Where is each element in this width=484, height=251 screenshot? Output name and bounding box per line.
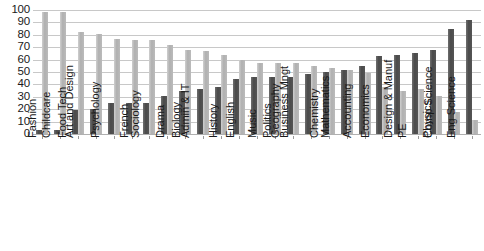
x-axis-label-cell: Accounting: [356, 136, 374, 248]
x-axis-label-cell: Physics: [427, 136, 445, 248]
y-axis-tick-label: 80: [0, 29, 30, 41]
x-axis-label-cell: Geography: [284, 136, 302, 248]
x-axis-tick: [418, 136, 419, 139]
x-axis-label-cell: Food Tech: [69, 136, 87, 248]
x-axis-label-cell: History: [212, 136, 230, 248]
x-axis-label-cell: Biology: [176, 136, 194, 248]
x-axis-label-cell: Business Mngt: [302, 136, 320, 248]
x-axis-label-cell: Art and Design: [87, 136, 105, 248]
x-axis-label-cell: Design & Manuf: [409, 136, 427, 248]
bar-chart: 1009080706050403020100 FashionChildcareF…: [0, 0, 484, 251]
y-axis-tick-label: 50: [0, 66, 30, 78]
x-axis-label-cell: Fashion: [33, 136, 51, 248]
x-axis-tick-label: Mathematics: [320, 76, 331, 138]
x-axis-tick: [203, 136, 204, 139]
bar: [472, 120, 478, 134]
bar-group: [463, 10, 481, 134]
x-axis-label-cell: Comp Science: [445, 136, 463, 248]
bar: [78, 32, 84, 134]
x-axis-tick-label: Accounting: [342, 84, 353, 138]
x-axis-label-cell: Drama: [158, 136, 176, 248]
bar: [436, 96, 442, 134]
x-axis-tick-label: Music: [247, 109, 258, 138]
x-axis-tick: [239, 136, 240, 139]
y-axis-tick-label: 90: [0, 17, 30, 29]
x-axis-tick-label: Eng Science: [446, 76, 457, 138]
x-axis-tick-label: Economics: [360, 84, 371, 138]
x-axis-label-cell: PE: [391, 136, 409, 248]
x-axis-tick: [436, 136, 437, 139]
x-axis-tick-label: Chemistry: [308, 88, 319, 138]
x-axis-tick-label: Design & Manuf: [384, 60, 395, 138]
x-axis-tick-label: Childcare: [41, 92, 52, 138]
x-axis-label-cell: Economics: [374, 136, 392, 248]
x-axis-tick: [114, 136, 115, 139]
x-axis-tick-label: Art and Design: [64, 65, 75, 138]
x-axis-tick-label: History: [209, 104, 220, 138]
x-axis-label-cell: Admin & IT: [194, 136, 212, 248]
x-axis-tick-label: Sociology: [130, 90, 141, 138]
bar: [466, 20, 472, 134]
x-axis-tick: [149, 136, 150, 139]
x-axis-tick-label: PE: [398, 123, 409, 138]
x-axis-tick-label: English: [226, 102, 237, 138]
x-axis-label-cell: Psychology: [105, 136, 123, 248]
bar: [239, 60, 245, 134]
x-axis-label-cell: Music: [248, 136, 266, 248]
y-axis-tick-label: 70: [0, 41, 30, 53]
y-axis-tick-label: 100: [0, 4, 30, 16]
x-axis-tick: [472, 136, 473, 139]
y-axis-tick-label: 60: [0, 54, 30, 66]
x-axis-tick-label: Psychology: [90, 82, 101, 138]
x-axis-tick: [293, 136, 294, 139]
x-axis: FashionChildcareFood TechArt and DesignP…: [33, 136, 481, 248]
x-axis-tick-label: Fashion: [27, 99, 38, 138]
x-axis-label-cell: Eng Science: [463, 136, 481, 248]
x-axis-tick-label: Admin & IT: [181, 84, 192, 138]
x-axis-tick: [167, 136, 168, 139]
x-axis-label-cell: Sociology: [141, 136, 159, 248]
x-axis-label-cell: English: [230, 136, 248, 248]
x-axis-tick-label: Comp Science: [423, 66, 434, 138]
y-axis-tick-label: 40: [0, 79, 30, 91]
x-axis-label-cell: Mathematics: [338, 136, 356, 248]
x-axis-label-cell: French: [123, 136, 141, 248]
x-axis-label-cell: Chemistry: [320, 136, 338, 248]
x-axis-tick-label: Business Mngt: [279, 66, 290, 138]
x-axis-tick-label: Drama: [155, 105, 166, 138]
x-axis-label-cell: Politics: [266, 136, 284, 248]
bar: [293, 63, 299, 134]
x-axis-tick: [78, 136, 79, 139]
x-axis-tick: [221, 136, 222, 139]
x-axis-label-cell: Childcare: [51, 136, 69, 248]
